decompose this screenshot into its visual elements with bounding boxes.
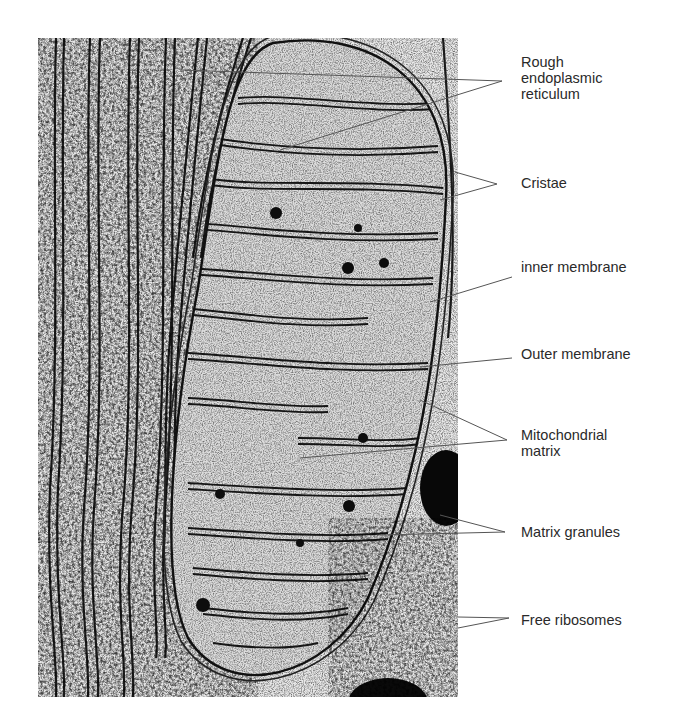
label-rough-er: Rough endoplasmic reticulum: [521, 54, 602, 102]
label-free-ribosomes: Free ribosomes: [521, 612, 622, 628]
label-matrix-granules: Matrix granules: [521, 524, 620, 540]
label-mitochondrial-matrix: Mitochondrial matrix: [521, 427, 607, 459]
label-cristae: Cristae: [521, 175, 567, 191]
mitochondrion-micrograph: [38, 38, 458, 697]
leader-line-free-ribosomes: [458, 618, 509, 628]
leader-line-cristae: [455, 172, 497, 184]
leader-line-free-ribosomes: [458, 617, 509, 618]
label-outer-membrane: Outer membrane: [521, 346, 631, 362]
label-inner-membrane: inner membrane: [521, 259, 627, 275]
